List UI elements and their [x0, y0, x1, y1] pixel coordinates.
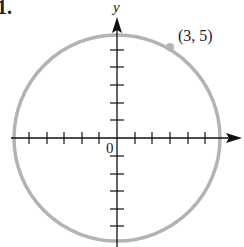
- problem-number: 1.: [0, 0, 12, 18]
- origin-label: 0: [106, 140, 114, 156]
- circle-diagram: 1. y 0 (3, 5): [0, 0, 244, 247]
- y-axis-label: y: [111, 0, 120, 15]
- point-marker: [166, 43, 174, 51]
- point-label: (3, 5): [178, 27, 213, 45]
